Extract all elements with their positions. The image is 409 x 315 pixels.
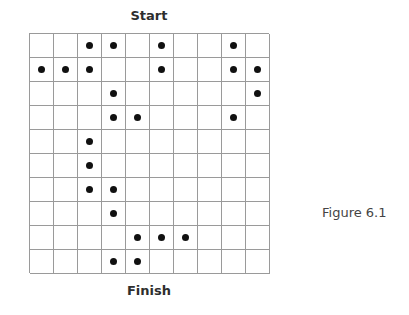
grid-cell <box>102 58 126 82</box>
grid-cell <box>198 178 222 202</box>
grid-cell <box>126 202 150 226</box>
grid-cell <box>78 34 102 58</box>
grid-cell <box>150 34 174 58</box>
grid-cell <box>198 154 222 178</box>
grid-cell <box>174 250 198 274</box>
grid-cell <box>126 106 150 130</box>
grid-cell <box>246 130 270 154</box>
grid-cell <box>78 154 102 178</box>
dot-marker <box>110 90 117 97</box>
grid-cell <box>78 130 102 154</box>
grid-cell <box>30 250 54 274</box>
grid-cell <box>54 154 78 178</box>
grid-cell <box>222 58 246 82</box>
grid-cell <box>78 82 102 106</box>
grid-cell <box>222 250 246 274</box>
grid-cell <box>246 250 270 274</box>
start-label: Start <box>29 8 269 23</box>
grid-cell <box>102 250 126 274</box>
dot-marker <box>158 42 165 49</box>
grid-cell <box>30 226 54 250</box>
grid-cell <box>222 106 246 130</box>
grid-cell <box>126 130 150 154</box>
grid-cell <box>150 226 174 250</box>
dot-marker <box>158 66 165 73</box>
dot-marker <box>230 42 237 49</box>
dot-marker <box>254 90 261 97</box>
dot-marker <box>254 66 261 73</box>
grid-cell <box>54 130 78 154</box>
grid-cell <box>54 58 78 82</box>
grid-cell <box>102 34 126 58</box>
grid-cell <box>54 106 78 130</box>
grid-cell <box>150 202 174 226</box>
grid-cell <box>222 34 246 58</box>
dot-marker <box>110 42 117 49</box>
grid-cell <box>150 106 174 130</box>
grid-cell <box>30 154 54 178</box>
grid-cell <box>30 58 54 82</box>
dot-marker <box>86 186 93 193</box>
grid-cell <box>150 82 174 106</box>
dot-marker <box>230 66 237 73</box>
grid-cell <box>150 178 174 202</box>
grid-cell <box>54 178 78 202</box>
dot-marker <box>182 234 189 241</box>
grid-cell <box>78 202 102 226</box>
grid-cell <box>198 226 222 250</box>
grid-cell <box>246 226 270 250</box>
grid-cell <box>54 34 78 58</box>
grid-cell <box>222 226 246 250</box>
grid-cell <box>30 202 54 226</box>
grid-cell <box>126 154 150 178</box>
grid-cell <box>30 106 54 130</box>
grid-cell <box>246 106 270 130</box>
grid-cell <box>102 226 126 250</box>
grid-cell <box>198 82 222 106</box>
finish-label: Finish <box>29 283 269 298</box>
grid-cell <box>54 226 78 250</box>
grid-cell <box>126 226 150 250</box>
grid-cell <box>222 82 246 106</box>
grid-cell <box>222 178 246 202</box>
dot-marker <box>158 234 165 241</box>
dot-marker <box>110 258 117 265</box>
grid-cell <box>102 178 126 202</box>
grid-cell <box>54 250 78 274</box>
grid-cell <box>102 82 126 106</box>
grid-cell <box>30 130 54 154</box>
grid-cell <box>30 178 54 202</box>
grid-cell <box>198 106 222 130</box>
grid-cell <box>246 154 270 178</box>
grid-cell <box>150 154 174 178</box>
grid-cell <box>126 82 150 106</box>
grid-cell <box>198 58 222 82</box>
dot-marker <box>110 186 117 193</box>
grid-cell <box>174 130 198 154</box>
dot-marker <box>38 66 45 73</box>
grid-cell <box>198 202 222 226</box>
dot-marker <box>86 162 93 169</box>
grid-cell <box>174 178 198 202</box>
grid-cell <box>54 202 78 226</box>
grid-cell <box>174 154 198 178</box>
grid-cell <box>126 58 150 82</box>
dot-marker <box>62 66 69 73</box>
dot-marker <box>134 114 141 121</box>
grid-cell <box>78 226 102 250</box>
grid-cell <box>198 250 222 274</box>
grid-cell <box>174 58 198 82</box>
grid-cell <box>102 130 126 154</box>
grid-cell <box>246 178 270 202</box>
dot-marker <box>134 258 141 265</box>
dot-grid <box>29 33 269 273</box>
grid-cell <box>198 130 222 154</box>
dot-marker <box>86 42 93 49</box>
grid-cell <box>246 34 270 58</box>
grid-cell <box>150 250 174 274</box>
grid-cell <box>78 250 102 274</box>
grid-cell <box>78 178 102 202</box>
dot-marker <box>110 114 117 121</box>
grid-cell <box>126 250 150 274</box>
figure-caption: Figure 6.1 <box>322 205 387 220</box>
